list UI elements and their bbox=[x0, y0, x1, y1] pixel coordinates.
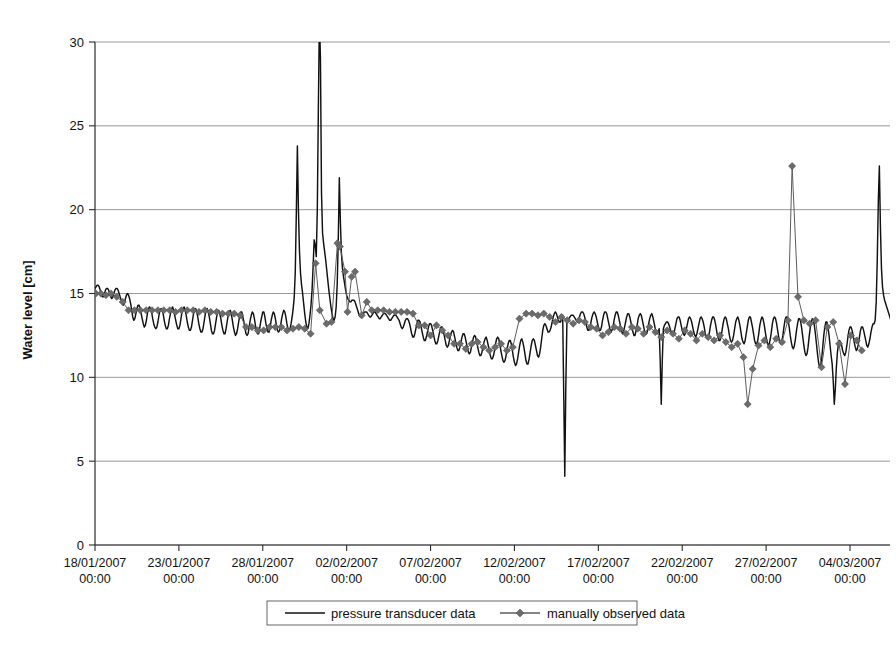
x-tick-label-time: 00:00 bbox=[834, 572, 865, 586]
y-tick-label: 30 bbox=[70, 35, 84, 50]
y-tick-label: 25 bbox=[70, 118, 84, 133]
legend-label-pressure-transducer-data: pressure transducer data bbox=[331, 606, 476, 621]
water-level-chart: 051015202530 18/01/200700:0023/01/200700… bbox=[0, 0, 896, 646]
x-tick-label-time: 00:00 bbox=[331, 572, 362, 586]
y-axis-title: Water level [cm] bbox=[20, 260, 35, 359]
x-tick-label-time: 00:00 bbox=[247, 572, 278, 586]
chart-figure: 051015202530 18/01/200700:0023/01/200700… bbox=[0, 0, 896, 646]
x-tick-label-time: 00:00 bbox=[163, 572, 194, 586]
x-tick-label-date: 22/02/2007 bbox=[651, 556, 714, 570]
x-tick-label-date: 18/01/2007 bbox=[64, 556, 127, 570]
x-tick-label-time: 00:00 bbox=[750, 572, 781, 586]
x-tick-label-time: 00:00 bbox=[415, 572, 446, 586]
y-tick-label: 0 bbox=[77, 538, 84, 553]
y-tick-label: 10 bbox=[70, 370, 84, 385]
x-tick-label-date: 12/02/2007 bbox=[483, 556, 546, 570]
y-tick-label: 5 bbox=[77, 454, 84, 469]
x-tick-label-date: 17/02/2007 bbox=[567, 556, 630, 570]
chart-legend: pressure transducer datamanually observe… bbox=[267, 601, 686, 625]
y-tick-label: 15 bbox=[70, 286, 84, 301]
y-tick-label: 20 bbox=[70, 202, 84, 217]
x-tick-label-date: 28/01/2007 bbox=[231, 556, 294, 570]
x-tick-label-time: 00:00 bbox=[667, 572, 698, 586]
x-tick-label-date: 23/01/2007 bbox=[148, 556, 211, 570]
x-tick-label-time: 00:00 bbox=[499, 572, 530, 586]
x-tick-label-date: 04/03/2007 bbox=[819, 556, 882, 570]
x-tick-label-time: 00:00 bbox=[583, 572, 614, 586]
x-tick-label-date: 07/02/2007 bbox=[399, 556, 462, 570]
legend-label-manually-observed-data: manually observed data bbox=[547, 606, 686, 621]
chart-background bbox=[0, 0, 896, 646]
x-tick-label-time: 00:00 bbox=[79, 572, 110, 586]
x-tick-label-date: 02/02/2007 bbox=[315, 556, 378, 570]
x-tick-label-date: 27/02/2007 bbox=[735, 556, 798, 570]
y-axis-title-group: Water level [cm] bbox=[20, 260, 35, 359]
